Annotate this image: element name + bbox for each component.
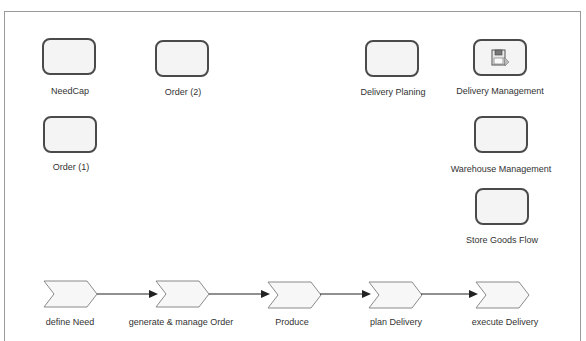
process-step-plan-delivery-label: plan Delivery xyxy=(370,317,422,327)
process-step-plan-delivery[interactable] xyxy=(368,281,424,309)
flow-arrow-4 xyxy=(421,288,479,300)
flow-arrow-1 xyxy=(97,288,159,300)
system-warehouse-management[interactable] xyxy=(474,116,528,153)
system-delivery-planing-label: Delivery Planing xyxy=(360,87,425,97)
system-store-goods-flow[interactable] xyxy=(475,188,529,225)
process-step-produce-label: Produce xyxy=(275,317,309,327)
system-order-1-label: Order (1) xyxy=(53,162,90,172)
system-store-goods-flow-label: Store Goods Flow xyxy=(466,235,538,245)
system-needcap-label: NeedCap xyxy=(51,86,89,96)
system-order-2[interactable] xyxy=(155,40,209,77)
process-step-define-need-label: define Need xyxy=(46,317,95,327)
system-needcap[interactable] xyxy=(42,38,96,75)
system-order-2-label: Order (2) xyxy=(165,87,202,97)
system-delivery-management-label: Delivery Management xyxy=(456,86,544,96)
process-step-produce[interactable] xyxy=(267,281,323,309)
system-delivery-planing[interactable] xyxy=(365,40,419,77)
floppy-disk-icon xyxy=(491,47,511,69)
process-step-execute-delivery-label: execute Delivery xyxy=(472,317,539,327)
system-warehouse-management-label: Warehouse Management xyxy=(451,164,552,174)
system-order-1[interactable] xyxy=(43,116,97,153)
flow-arrow-3 xyxy=(320,288,372,300)
process-step-define-need[interactable] xyxy=(43,280,99,308)
process-step-generate-manage-order[interactable] xyxy=(155,280,211,308)
process-step-execute-delivery[interactable] xyxy=(475,281,531,309)
process-step-generate-manage-order-label: generate & manage Order xyxy=(129,317,234,327)
flow-arrow-2 xyxy=(209,288,271,300)
system-delivery-management[interactable] xyxy=(473,39,527,76)
